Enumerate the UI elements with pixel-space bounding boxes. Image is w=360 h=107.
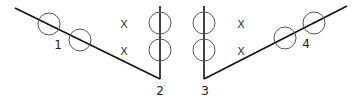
diagram-canvas xyxy=(0,0,360,107)
x-marker-right-bottom: X xyxy=(237,46,245,57)
x-marker-left-bottom: X xyxy=(120,46,128,57)
left-slanted-line xyxy=(15,8,160,79)
label-4: 4 xyxy=(302,38,310,50)
x-marker-right-top: X xyxy=(237,19,245,30)
label-2: 2 xyxy=(156,85,164,97)
x-marker-left-top: X xyxy=(120,19,128,30)
label-1: 1 xyxy=(54,39,62,51)
label-3: 3 xyxy=(201,85,209,97)
